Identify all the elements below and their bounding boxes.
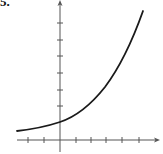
exponential-graph [0,0,163,154]
x-axis [17,137,160,143]
y-axis [57,0,63,152]
exponential-curve [17,11,143,131]
